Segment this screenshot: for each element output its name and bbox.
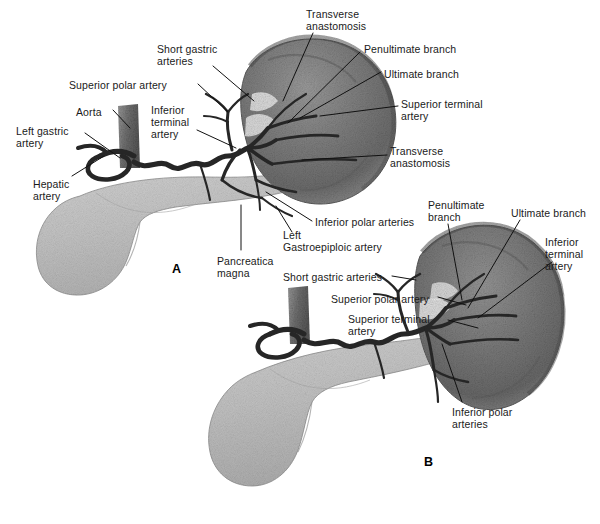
panel-a-identifier: A bbox=[172, 262, 181, 276]
superior-polar-artery-a: Superior polar artery bbox=[69, 79, 167, 91]
left-gastric-artery-a: Left gastric artery bbox=[16, 125, 69, 149]
superior-terminal-artery-a: Superior terminal artery bbox=[401, 98, 483, 122]
ultimate-branch-a: Ultimate branch bbox=[384, 68, 459, 80]
transverse-anastomosis-lower: Transverse anastomosis bbox=[390, 145, 450, 169]
inferior-polar-arteries-b: Inferior polar arteries bbox=[452, 406, 512, 430]
superior-polar-artery-b: Superior polar artery bbox=[331, 293, 429, 305]
superior-terminal-artery-b: Superior terminal artery bbox=[348, 313, 430, 337]
penultimate-branch-b: Penultimate branch bbox=[428, 199, 485, 223]
pancreatica-magna: Pancreatica magna bbox=[217, 255, 274, 279]
ultimate-branch-b: Ultimate branch bbox=[511, 207, 586, 219]
penultimate-branch-a: Penultimate branch bbox=[364, 43, 456, 55]
short-gastric-arteries-b: Short gastric arteries bbox=[283, 271, 382, 283]
hepatic-artery-a: Hepatic artery bbox=[33, 178, 69, 202]
left-gastroepiploic-artery-a: Left Gastroepiploic artery bbox=[283, 229, 382, 253]
inferior-terminal-artery-a: Inferior terminal artery bbox=[151, 104, 189, 141]
panel-b-identifier: B bbox=[424, 455, 433, 469]
transverse-anastomosis-upper: Transverse anastomosis bbox=[306, 8, 366, 32]
inferior-terminal-artery-b: Inferior terminal artery bbox=[545, 236, 583, 273]
aorta-a: Aorta bbox=[76, 106, 102, 118]
short-gastric-arteries-a: Short gastric arteries bbox=[157, 43, 217, 67]
inferior-polar-arteries-a: Inferior polar arteries bbox=[315, 216, 414, 228]
